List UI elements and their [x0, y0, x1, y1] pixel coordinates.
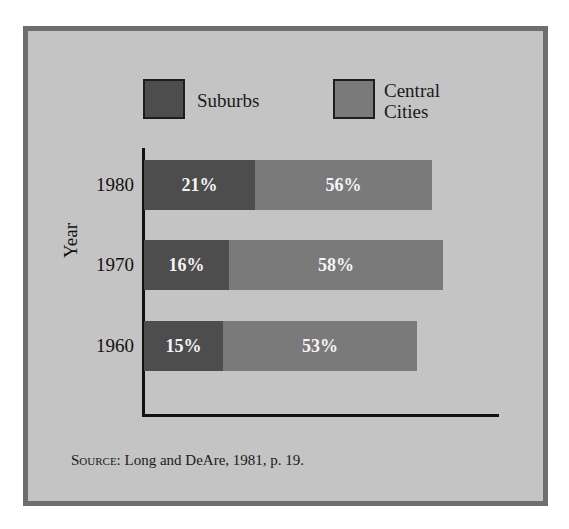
- bar-1960-central: 53%: [223, 321, 417, 371]
- legend-label-central-line1: Central: [384, 80, 440, 101]
- bar-1980-suburbs: 21%: [144, 160, 255, 210]
- bar-1970-suburbs: 16%: [144, 240, 229, 290]
- source-prefix: Source:: [71, 452, 121, 468]
- x-axis: [142, 414, 499, 417]
- bar-1970-central: 58%: [229, 240, 443, 290]
- source-text: Long and DeAre, 1981, p. 19.: [121, 452, 304, 468]
- y-axis-label: Year: [60, 223, 82, 258]
- bar-1960-suburbs-value: 15%: [166, 336, 202, 357]
- year-label-1970: 1970: [96, 254, 140, 276]
- bar-1960-central-value: 53%: [302, 336, 338, 357]
- year-label-1960: 1960: [96, 335, 140, 357]
- year-label-1980: 1980: [96, 174, 140, 196]
- bar-1970-central-value: 58%: [318, 255, 354, 276]
- legend-label-central-cities: Central Cities: [384, 80, 440, 122]
- bar-1980-suburbs-value: 21%: [182, 175, 218, 196]
- bar-1970-suburbs-value: 16%: [169, 255, 205, 276]
- bar-1980-central-value: 56%: [326, 175, 362, 196]
- legend-swatch-suburbs: [143, 79, 185, 119]
- legend-swatch-central-cities: [333, 79, 375, 119]
- bar-1960-suburbs: 15%: [144, 321, 223, 371]
- bar-1980-central: 56%: [255, 160, 432, 210]
- legend-label-central-line2: Cities: [384, 101, 440, 122]
- source-note: Source: Long and DeAre, 1981, p. 19.: [71, 452, 304, 469]
- legend-label-suburbs: Suburbs: [197, 90, 259, 111]
